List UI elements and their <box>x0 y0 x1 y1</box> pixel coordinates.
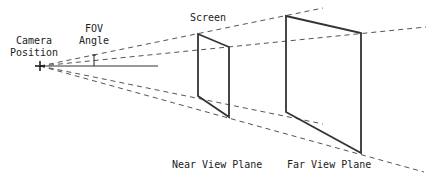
camera-label-line1: Camera <box>6 35 62 47</box>
camera-label-line2: Position <box>6 47 62 59</box>
view-frustum-diagram: Camera Position FOV Angle Screen Near Vi… <box>0 0 447 179</box>
far-view-plane <box>286 16 361 153</box>
ray-bottom-left <box>40 66 323 124</box>
screen-label: Screen <box>190 12 226 24</box>
ray-bottom-right <box>40 66 424 172</box>
far-view-plane-label: Far View Plane <box>287 159 371 171</box>
fov-angle-label: FOV Angle <box>74 23 114 47</box>
near-view-plane-label: Near View Plane <box>172 159 262 171</box>
near-view-plane <box>198 34 229 117</box>
fov-label-line2: Angle <box>74 35 114 47</box>
fov-label-line1: FOV <box>74 23 114 35</box>
frustum-drawing <box>0 0 447 179</box>
camera-position-label: Camera Position <box>6 35 62 59</box>
